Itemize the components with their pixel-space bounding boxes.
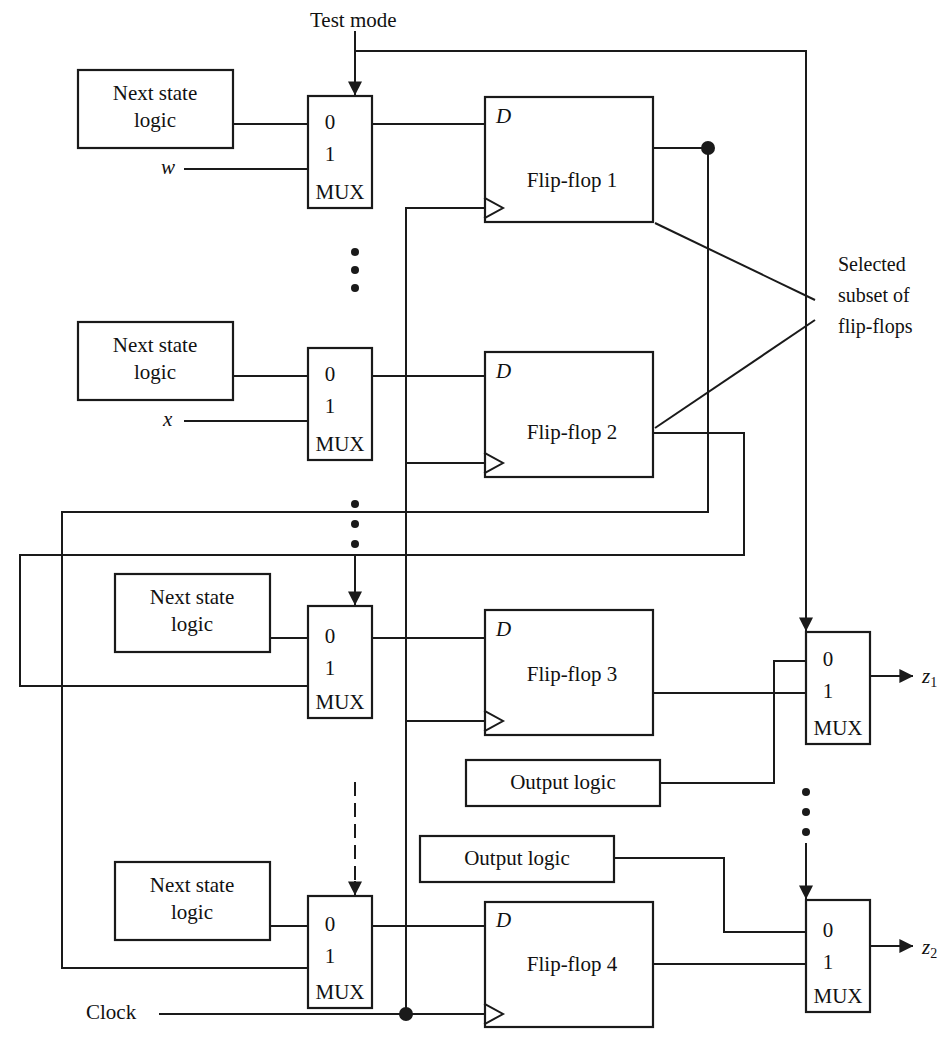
clock-label: Clock [86,1000,137,1024]
selected-subset-line-3: flip-flops [838,315,913,338]
mux4-input-1-label: 1 [325,944,336,968]
input-mux-1: 0 1 MUX [308,96,372,208]
omux2-input-0-label: 0 [823,918,834,942]
next-state-logic-block-1: Next state logic [78,70,233,148]
nsl4-line1: Next state [150,873,235,897]
next-state-logic-block-3: Next state logic [115,574,270,652]
diagram-canvas: Test mode Next state logic w 0 1 MUX D F… [0,0,949,1056]
ol1-to-omux1-in0 [660,661,806,783]
ff4-label: Flip-flop 4 [527,952,618,976]
mux4-input-0-label: 0 [325,912,336,936]
selected-subset-leader-2 [655,320,815,428]
ellipsis-dots-output-column [802,788,810,836]
nsl3-line2: logic [171,612,213,636]
mux1-input-1-label: 1 [325,142,336,166]
omux2-name-label: MUX [813,984,862,1008]
mux4-name-label: MUX [315,980,364,1004]
input-w-label: w [161,155,175,179]
ff4-d-label: D [495,908,511,932]
mux1-name-label: MUX [315,180,364,204]
output-mux-2: 0 1 MUX [806,900,870,1012]
next-state-logic-block-4: Next state logic [115,862,270,940]
mux2-input-1-label: 1 [325,394,336,418]
mux3-input-0-label: 0 [325,624,336,648]
test-mode-label: Test mode [310,8,397,32]
input-mux-4: 0 1 MUX [308,896,372,1008]
output-mux-1: 0 1 MUX [806,632,870,744]
ellipsis-dots-column-2 [351,500,359,548]
output-z2-label: z2 [921,935,937,961]
flip-flop-4: D Flip-flop 4 [485,902,653,1027]
ff1-d-label: D [495,104,511,128]
nsl2-line2: logic [134,360,176,384]
input-x-label: x [162,407,173,431]
ff1-output-net [653,141,715,512]
mux1-input-0-label: 0 [325,110,336,134]
ff3-q-segment [653,664,774,693]
ol1-label: Output logic [510,770,616,794]
nsl3-line1: Next state [150,585,235,609]
mux3-input-1-label: 1 [325,656,336,680]
flip-flop-1: D Flip-flop 1 [485,97,653,222]
selected-subset-annotation: Selected subset of flip-flops [838,253,913,338]
next-state-logic-block-2: Next state logic [78,322,233,400]
omux1-input-0-label: 0 [823,647,834,671]
selected-subset-line-1: Selected [838,253,906,275]
nsl4-line2: logic [171,900,213,924]
output-logic-block-1: Output logic [466,760,660,806]
omux1-input-1-label: 1 [823,679,834,703]
flip-flop-3: D Flip-flop 3 [485,610,653,735]
ff3-label: Flip-flop 3 [527,662,617,686]
scan-path-diagram: Test mode Next state logic w 0 1 MUX D F… [0,0,949,1056]
input-mux-3: 0 1 MUX [308,606,372,718]
ff2-label: Flip-flop 2 [527,420,617,444]
omux2-input-1-label: 1 [823,950,834,974]
mux2-input-0-label: 0 [325,362,336,386]
mux3-name-label: MUX [315,690,364,714]
nsl2-line1: Next state [113,333,198,357]
omux1-name-label: MUX [813,716,862,740]
output-z1-label: z1 [921,664,937,690]
nsl1-line1: Next state [113,81,198,105]
selected-subset-leader-1 [655,223,815,300]
output-logic-block-2: Output logic [420,836,614,882]
input-mux-2: 0 1 MUX [308,348,372,460]
ellipsis-dots-column-1 [351,248,359,292]
ol2-label: Output logic [464,846,570,870]
selected-subset-line-2: subset of [838,284,910,306]
output-mux-1-inputs [653,661,806,783]
ff2-d-label: D [495,359,511,383]
nsl1-line2: logic [134,108,176,132]
mux2-name-label: MUX [315,432,364,456]
ff3-d-label: D [495,617,511,641]
flip-flop-2: D Flip-flop 2 [485,352,653,477]
ff1-label: Flip-flop 1 [527,168,617,192]
